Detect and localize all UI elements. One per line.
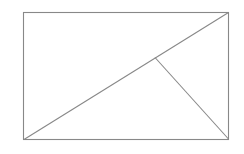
perpendicular-line [155, 58, 229, 140]
geometry-diagram [0, 0, 244, 154]
diagonal-line [24, 13, 229, 140]
diagram-svg [0, 0, 244, 154]
